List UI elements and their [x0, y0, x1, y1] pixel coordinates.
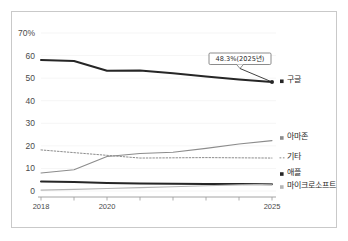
- legend-marker-square-마이크로소프트: [280, 185, 284, 189]
- y-tick-label-70: 70%: [18, 28, 35, 38]
- legend-item-아마존[interactable]: 아마존: [280, 131, 308, 141]
- series-line-마이크로소프트: [41, 184, 272, 190]
- x-tick-label-2018: 2018: [33, 202, 50, 211]
- y-tick-label-40: 40: [26, 96, 36, 106]
- y-tick-label-30: 30: [26, 118, 36, 128]
- annotation-data-point-marker: [270, 80, 274, 84]
- x-tick-label-2025: 2025: [264, 202, 281, 211]
- series-line-기타: [41, 150, 272, 158]
- legend-label-아마존: 아마존: [287, 131, 308, 141]
- annotation-callout-tail: [237, 65, 244, 69]
- chart-figure: 010203040506070% 201820202025 48.3%(2025…: [11, 11, 337, 228]
- legend-item-구글[interactable]: 구글: [280, 75, 301, 84]
- legend-label-애플: 애플: [287, 168, 301, 177]
- y-tick-label-50: 50: [26, 73, 36, 83]
- x-axis-line-group: [38, 197, 276, 201]
- legend-item-마이크로소프트[interactable]: 마이크로소프트: [280, 180, 336, 190]
- line-chart-plot: 010203040506070% 201820202025 48.3%(2025…: [12, 12, 338, 229]
- legend-marker-square-아마존: [280, 136, 284, 140]
- y-tick-label-20: 20: [26, 141, 36, 151]
- y-tick-label-10: 10: [26, 163, 36, 173]
- legend-group: 구글아마존기타애플마이크로소프트: [280, 75, 336, 190]
- legend-label-구글: 구글: [287, 75, 301, 84]
- legend-item-기타[interactable]: 기타: [280, 152, 302, 161]
- y-tick-label-60: 60: [26, 51, 36, 61]
- legend-label-마이크로소프트: 마이크로소프트: [287, 180, 336, 190]
- legend-item-애플[interactable]: 애플: [280, 168, 301, 177]
- x-tick-label-2020: 2020: [99, 202, 116, 211]
- annotation-callout-text: 48.3%(2025년): [216, 54, 265, 63]
- legend-label-기타: 기타: [287, 152, 302, 161]
- data-series-group: [41, 60, 272, 190]
- y-axis-tick-labels: 010203040506070%: [18, 28, 35, 196]
- legend-marker-square-구글: [280, 79, 284, 83]
- legend-marker-square-애플: [280, 172, 284, 176]
- series-line-애플: [41, 182, 272, 185]
- y-tick-label-0: 0: [30, 186, 35, 196]
- x-axis-tick-labels: 201820202025: [33, 202, 281, 211]
